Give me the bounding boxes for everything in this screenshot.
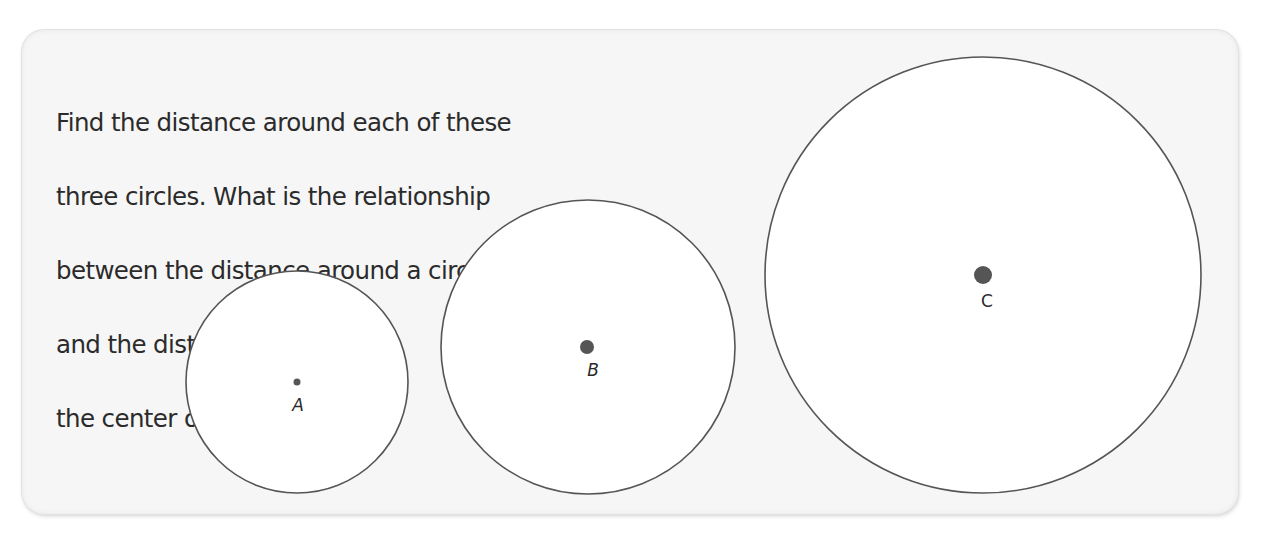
circles-figure: A B C bbox=[0, 0, 1273, 538]
circle-c: C bbox=[765, 57, 1201, 493]
circle-c-center-dot bbox=[974, 266, 992, 284]
circle-a: A bbox=[186, 271, 408, 493]
page: Find the distance around each of these t… bbox=[0, 0, 1273, 538]
circle-b-label: B bbox=[587, 360, 599, 380]
circle-c-label: C bbox=[981, 291, 993, 311]
circle-a-label: A bbox=[291, 395, 304, 415]
circle-b-center-dot bbox=[580, 340, 594, 354]
circle-b: B bbox=[441, 200, 735, 494]
circle-a-center-dot bbox=[294, 379, 301, 386]
